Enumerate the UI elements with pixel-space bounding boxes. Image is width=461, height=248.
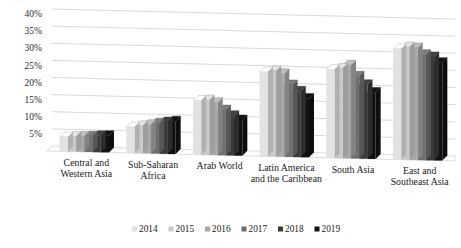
legend-swatch [132, 227, 137, 232]
x-axis-category-label: East andSoutheast Asia [391, 165, 450, 187]
bar-side-face [301, 86, 306, 157]
bar-side-face [218, 98, 223, 155]
y-axis-tick-labels: 5%10%15%20%25%30%35%40% [25, 9, 43, 139]
legend-label: 2017 [249, 224, 268, 234]
y-axis-tick-label: 20% [25, 78, 43, 88]
y-axis-tick-label: 35% [25, 26, 43, 36]
gridline [52, 9, 455, 19]
bars-group [60, 42, 448, 160]
bar [260, 67, 273, 156]
y-axis-tick-label: 25% [25, 61, 43, 71]
bar-side-face [418, 43, 423, 160]
bar-side-face [359, 71, 364, 158]
bar-side-face [376, 88, 381, 159]
bar [193, 96, 206, 155]
bar-side-face [159, 118, 164, 153]
bar-side-face [409, 42, 414, 160]
bar-side-face [226, 105, 231, 155]
legend-swatch [169, 227, 174, 232]
chart-canvas: 5%10%15%20%25%30%35%40% Central andWeste… [0, 0, 461, 248]
legend-label: 2016 [212, 224, 231, 234]
bar-side-face [268, 67, 273, 156]
legend-label: 2014 [139, 224, 158, 234]
bar-side-face [293, 80, 298, 157]
y-axis-tick-label: 5% [29, 129, 42, 139]
bar-side-face [426, 50, 431, 160]
bar-front-face [126, 127, 134, 153]
y-axis-tick-label: 30% [25, 43, 43, 53]
bar [326, 65, 339, 158]
bar-side-face [143, 121, 148, 153]
bar-side-face [343, 63, 348, 158]
bar-front-face [60, 137, 68, 151]
bar-side-face [309, 93, 314, 157]
bar-front-face [193, 101, 201, 155]
bar-side-face [201, 96, 206, 155]
bar-front-face [393, 49, 401, 160]
x-axis-category-labels: Central andWestern AsiaSub-SaharanAfrica… [60, 157, 449, 187]
bar-front-face [260, 72, 268, 156]
gridline [52, 26, 455, 36]
bar-side-face [284, 69, 289, 157]
bar-front-face [326, 70, 334, 158]
x-axis-category-label: South Asia [332, 164, 375, 175]
x-axis-category-label: Central andWestern Asia [60, 157, 112, 179]
bar-chart: 5%10%15%20%25%30%35%40% Central andWeste… [0, 0, 461, 248]
bar-side-face [167, 117, 172, 154]
y-axis-tick-label: 10% [25, 112, 43, 122]
y-axis-tick-label: 15% [25, 95, 43, 105]
bar-side-face [442, 58, 447, 161]
chart-legend: 201420152016201720182019 [132, 224, 340, 234]
legend-swatch [278, 227, 283, 232]
x-axis-category-label: Arab World [197, 160, 243, 171]
bar-side-face [335, 65, 340, 158]
bar [126, 122, 139, 153]
bar [393, 44, 406, 160]
legend-label: 2019 [322, 224, 341, 234]
bar-side-face [276, 66, 281, 157]
bar-side-face [209, 95, 214, 155]
bar-side-face [135, 122, 140, 153]
x-axis-category-label: Latin Americaand the Caribbean [251, 162, 322, 184]
legend-swatch [242, 227, 247, 232]
bar-side-face [176, 116, 181, 154]
y-axis-tick-label: 40% [25, 9, 43, 19]
bar-side-face [434, 52, 439, 160]
bar-side-face [151, 120, 156, 154]
bar-side-face [351, 60, 356, 158]
bar-side-face [367, 80, 372, 159]
bar-side-face [234, 111, 239, 156]
bar-side-face [401, 44, 406, 160]
legend-swatch [315, 227, 320, 232]
legend-label: 2018 [285, 224, 304, 234]
bar-side-face [242, 115, 247, 156]
x-axis-category-label: Sub-SaharanAfrica [128, 159, 178, 181]
legend-swatch [205, 227, 210, 232]
legend-label: 2015 [176, 224, 195, 234]
